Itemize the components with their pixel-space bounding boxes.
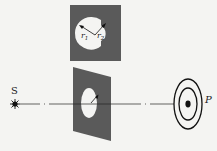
diffraction-rings	[174, 79, 202, 129]
point-label: P	[204, 94, 212, 105]
diffraction-diagram: S r1 r2 P	[0, 0, 217, 151]
source-label: S	[11, 85, 18, 96]
tilted-screen	[73, 67, 111, 141]
source-icon	[10, 99, 20, 109]
aperture-front-view: r1 r2	[70, 5, 121, 61]
